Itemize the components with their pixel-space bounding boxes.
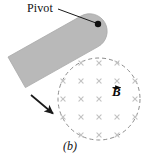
- pivot-point-dot: [95, 21, 101, 27]
- motion-direction-arrow: [31, 95, 53, 114]
- pivot-label: Pivot: [27, 2, 53, 15]
- field-into-page-markers: [61, 61, 137, 137]
- magnetic-field-label: B: [112, 85, 121, 98]
- figure-canvas: [0, 0, 142, 160]
- pivoting-bar: [8, 14, 107, 88]
- physics-figure-panel-b: Pivot B (b): [0, 0, 142, 160]
- magnetic-field-symbol: B: [112, 84, 121, 99]
- panel-caption: (b): [63, 140, 77, 153]
